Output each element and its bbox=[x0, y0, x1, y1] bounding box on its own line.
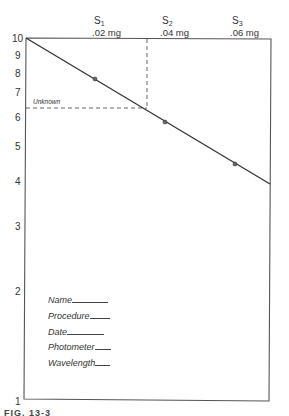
form-blank-photometer bbox=[95, 341, 111, 350]
form-field-name: Name bbox=[48, 294, 111, 310]
std-amount-s1: .02 mg bbox=[92, 27, 121, 38]
form-blank-name bbox=[72, 294, 108, 303]
y-tick-4: 4 bbox=[15, 176, 21, 187]
y-tick-6: 6 bbox=[15, 112, 21, 123]
y-tick-5: 5 bbox=[15, 141, 21, 152]
form-field-photometer: Photometer bbox=[48, 341, 111, 357]
y-tick-2: 2 bbox=[15, 286, 21, 297]
y-tick-8: 8 bbox=[15, 68, 21, 79]
form-blank-date bbox=[67, 326, 104, 335]
form-label-name: Name bbox=[48, 295, 72, 305]
y-axis-ticks: 10 9 8 7 6 5 4 3 2 1 bbox=[12, 33, 24, 407]
y-tick-3: 3 bbox=[15, 221, 21, 232]
y-tick-7: 7 bbox=[15, 87, 21, 98]
form-field-wavelength: Wavelength bbox=[48, 357, 111, 373]
form-label-wavelength: Wavelength bbox=[48, 358, 95, 368]
std-label-s1: S1 bbox=[94, 15, 105, 27]
form-field-procedure: Procedure bbox=[48, 310, 111, 326]
unknown-label: Unknown bbox=[33, 98, 60, 105]
form-blank-procedure bbox=[90, 310, 110, 319]
point-s1 bbox=[93, 77, 97, 81]
form-blank-wavelength bbox=[95, 357, 110, 366]
record-form: Name Procedure Date Photometer Wavelengt… bbox=[48, 294, 111, 373]
y-tick-1: 1 bbox=[15, 396, 21, 407]
standard-labels: S1 .02 mg S2 .04 mg S3 .06 mg bbox=[92, 15, 259, 38]
std-label-s2: S2 bbox=[162, 15, 173, 27]
point-s3 bbox=[233, 162, 237, 166]
form-label-photometer: Photometer bbox=[48, 342, 95, 352]
point-s2 bbox=[163, 120, 167, 124]
std-label-s3: S3 bbox=[232, 15, 243, 27]
y-tick-9: 9 bbox=[15, 50, 21, 61]
y-tick-10: 10 bbox=[12, 33, 24, 44]
std-amount-s3: .06 mg bbox=[230, 27, 259, 38]
form-label-date: Date bbox=[48, 327, 67, 337]
calibration-chart: 10 9 8 7 6 5 4 3 2 1 S1 .02 mg S2 .04 mg… bbox=[0, 0, 289, 416]
calibration-line bbox=[26, 38, 270, 184]
figure-caption: FIG. 13-3 bbox=[4, 408, 51, 416]
form-label-procedure: Procedure bbox=[48, 311, 90, 321]
std-amount-s2: .04 mg bbox=[160, 27, 189, 38]
form-field-date: Date bbox=[48, 326, 111, 342]
